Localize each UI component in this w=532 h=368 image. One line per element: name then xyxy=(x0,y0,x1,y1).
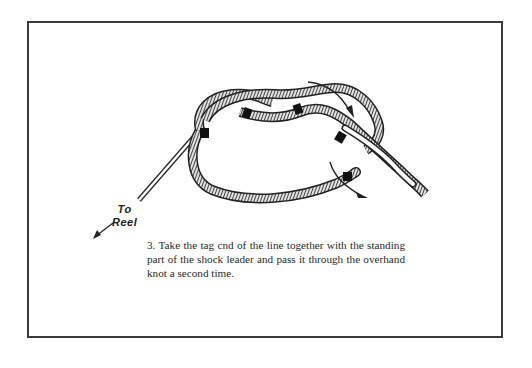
to-reel-arrow-icon xyxy=(93,223,113,239)
to-reel-label: To Reel xyxy=(112,203,137,229)
overhand-knot-icon xyxy=(200,88,425,194)
to-label: To xyxy=(112,203,137,216)
knot-illustration xyxy=(0,0,532,368)
reel-label: Reel xyxy=(112,216,137,229)
figure-caption: 3. Take the tag cnd of the line together… xyxy=(147,238,405,280)
